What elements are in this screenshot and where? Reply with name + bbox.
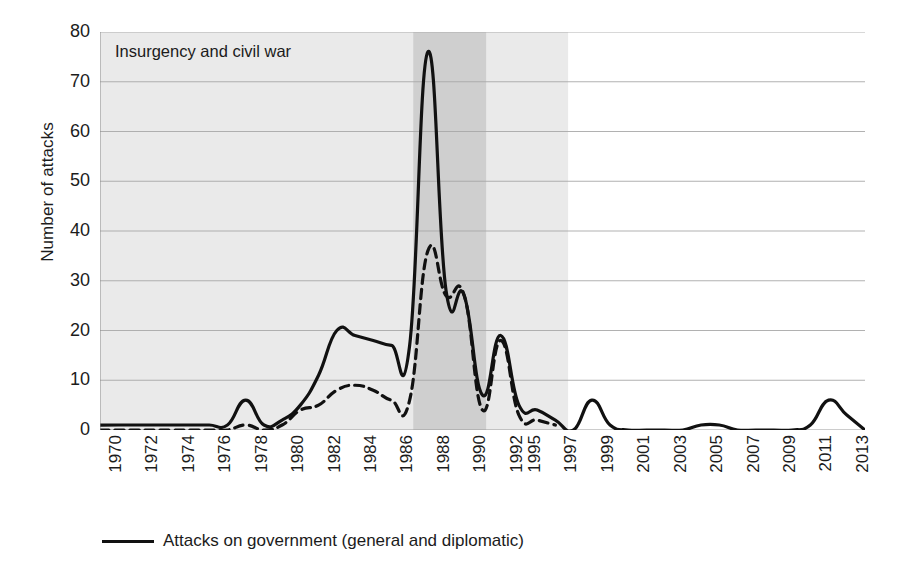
legend-line-swatch — [102, 540, 154, 543]
x-tick-label: 1986 — [397, 435, 417, 515]
legend-item-label: Attacks on government (general and diplo… — [163, 531, 524, 551]
x-tick-label: 2009 — [780, 435, 800, 515]
y-tick-label: 30 — [44, 270, 90, 291]
x-tick-label: 2007 — [744, 435, 764, 515]
x-tick-label: 1978 — [252, 435, 272, 515]
x-tick-label: 1976 — [215, 435, 235, 515]
x-tick-label: 1995 — [525, 435, 545, 515]
x-tick-label: 1997 — [561, 435, 581, 515]
y-tick-label: 50 — [44, 170, 90, 191]
x-tick-label: 1982 — [325, 435, 345, 515]
x-tick-label: 2011 — [816, 435, 836, 515]
y-tick-label: 70 — [44, 71, 90, 92]
x-tick-label: 1972 — [142, 435, 162, 515]
x-tick-label: 1990 — [470, 435, 490, 515]
annotation-insurgency-and-civil-war: Insurgency and civil war — [115, 42, 291, 61]
y-tick-label: 0 — [44, 419, 90, 440]
x-tick-label: 1992 — [507, 435, 527, 515]
x-axis-tick-labels: 1970197219741976197819801982198419861988… — [100, 437, 865, 517]
y-tick-label: 40 — [44, 220, 90, 241]
x-tick-label: 2005 — [707, 435, 727, 515]
x-tick-label: 1988 — [434, 435, 454, 515]
x-tick-label: 1999 — [598, 435, 618, 515]
plot-svg — [100, 32, 865, 430]
plot-area — [100, 32, 865, 430]
x-tick-label: 2003 — [671, 435, 691, 515]
y-tick-label: 60 — [44, 121, 90, 142]
x-tick-label: 1974 — [179, 435, 199, 515]
y-tick-label: 20 — [44, 320, 90, 341]
chart-legend: Attacks on government (general and diplo… — [102, 531, 524, 551]
x-tick-label: 2013 — [853, 435, 873, 515]
y-tick-label: 10 — [44, 369, 90, 390]
y-axis-tick-labels: 80706050403020100 — [34, 0, 90, 581]
chart-figure: Number of attacks 80706050403020100 Insu… — [0, 0, 905, 581]
x-tick-label: 1980 — [288, 435, 308, 515]
y-tick-label: 80 — [44, 21, 90, 42]
x-tick-label: 2001 — [634, 435, 654, 515]
x-tick-label: 1970 — [106, 435, 126, 515]
x-tick-label: 1984 — [361, 435, 381, 515]
